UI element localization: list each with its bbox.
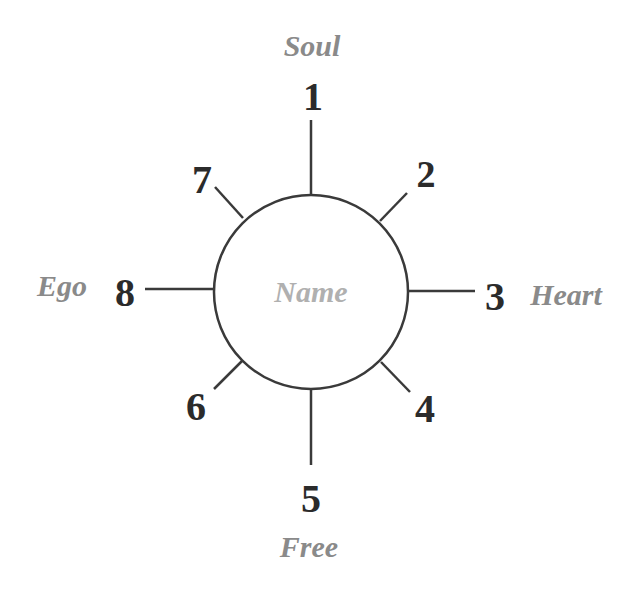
position-number-5: 5 (301, 476, 321, 521)
position-number-3: 3 (485, 274, 505, 319)
position-number-8: 8 (115, 270, 135, 315)
spoke-2 (380, 193, 407, 221)
position-label-soul: Soul (284, 29, 341, 62)
position-number-2: 2 (417, 153, 436, 195)
diagram-svg: Name 1 2 3 4 5 6 7 8 Soul Heart Free Ego (0, 0, 640, 595)
spoke-4 (381, 362, 410, 392)
position-number-6: 6 (186, 384, 206, 429)
position-number-7: 7 (192, 157, 212, 202)
position-number-4: 4 (415, 386, 435, 431)
position-number-1: 1 (303, 74, 323, 119)
position-label-ego: Ego (36, 269, 87, 302)
name-wheel-diagram: Name 1 2 3 4 5 6 7 8 Soul Heart Free Ego (0, 0, 640, 595)
position-label-free: Free (279, 530, 338, 563)
position-label-heart: Heart (529, 278, 603, 311)
center-label: Name (273, 275, 347, 308)
spoke-6 (214, 361, 242, 389)
spoke-7 (215, 187, 243, 218)
